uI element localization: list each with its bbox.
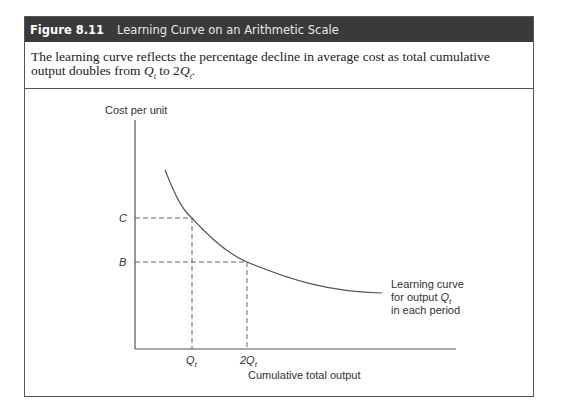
x-axis-label: Cumulative total output <box>248 369 361 381</box>
annotation-line3: in each period <box>391 304 460 316</box>
learning-curve-chart: Cost per unit C B Qt 2Qt Cumulative tota… <box>0 0 561 418</box>
tick-c: C <box>119 212 127 224</box>
tick-qt: Qt <box>186 354 198 369</box>
tick-2qt: 2Qt <box>239 354 258 369</box>
y-axis-label: Cost per unit <box>105 104 167 116</box>
tick-b: B <box>119 256 126 268</box>
annotation-line1: Learning curve <box>391 278 464 290</box>
learning-curve <box>165 170 382 293</box>
